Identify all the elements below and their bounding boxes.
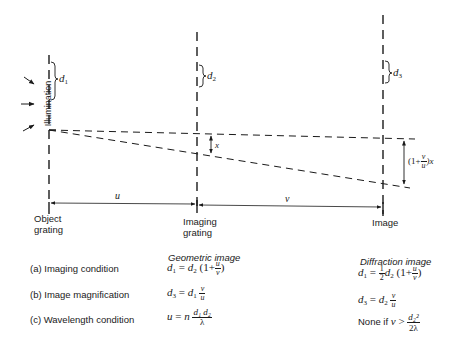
row-c-geometric-formula: u = n d₁ d₂λ xyxy=(167,308,212,327)
d1-label: d1 xyxy=(59,72,68,86)
image-plane-label: Image xyxy=(372,217,398,228)
row-a-geometric-formula: d1 = d2 (1+uv) xyxy=(167,260,225,277)
row-c-diffraction-formula: None if v > d₂²2λ xyxy=(358,312,420,333)
imaging-grating-label: Imaging grating xyxy=(183,216,217,238)
image-offset-label: (1+vu)x xyxy=(408,153,434,170)
row-a-diffraction-formula: d1 = 12d2 (1+uv) xyxy=(358,265,422,282)
illumination-arrows xyxy=(21,77,34,131)
row-b-label: (b) Image magnification xyxy=(30,289,129,300)
v-label: v xyxy=(285,193,289,204)
u-label: u xyxy=(115,190,120,201)
object-grating-label: Object grating xyxy=(34,213,63,235)
d3-label: d3 xyxy=(393,66,402,80)
x-label: x xyxy=(215,140,219,150)
row-c-label: (c) Wavelength condition xyxy=(30,314,134,325)
straight-ray xyxy=(49,130,415,139)
row-b-diffraction-formula: d3 = d2 vu xyxy=(358,292,396,309)
d2-label: d2 xyxy=(207,69,216,83)
v-distance-arrow xyxy=(197,200,383,216)
d3-brace xyxy=(385,61,392,83)
d2-brace xyxy=(199,65,206,87)
illumination-label: Illumination xyxy=(43,69,54,139)
diffracted-ray xyxy=(49,130,410,188)
row-b-geometric-formula: d3 = d1 vu xyxy=(167,285,205,302)
u-distance-arrow xyxy=(49,202,195,214)
row-a-label: (a) Imaging condition xyxy=(30,263,119,274)
